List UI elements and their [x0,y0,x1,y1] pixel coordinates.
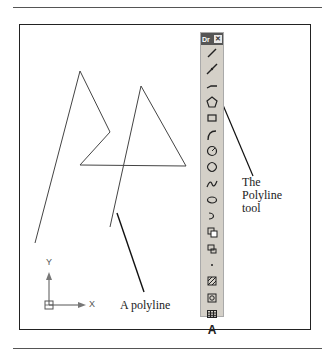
table-button[interactable] [201,306,223,322]
toolbar-title: Dr [202,36,210,43]
rectangle-icon [206,112,218,124]
spline-icon [206,178,218,190]
draw-toolbar: Dr ✕ A [200,32,224,317]
polyline-leader [117,213,144,292]
hatch-button[interactable] [201,273,223,289]
construction-line-button[interactable] [201,61,223,77]
rectangle-button[interactable] [201,110,223,126]
polyline-button[interactable] [201,78,223,94]
circle-button[interactable] [201,143,223,159]
line-button[interactable] [201,45,223,61]
ellipse-button[interactable] [201,192,223,208]
polygon-button[interactable] [201,94,223,110]
polyline-shape [35,71,186,243]
insert-block-button[interactable] [201,224,223,240]
polygon-icon [206,96,218,108]
multiline-text-button[interactable]: A [201,322,223,338]
construction-line-icon [206,63,218,75]
arc-button[interactable] [201,126,223,142]
line-icon [206,47,218,59]
arc-icon [206,129,218,141]
region-icon [206,292,218,304]
close-button[interactable]: ✕ [214,35,222,43]
revision-cloud-icon [206,161,218,173]
ellipse-icon [206,194,218,206]
polyline-caption: A polyline [120,299,170,312]
ellipse-arc-icon [206,210,218,222]
make-block-button[interactable] [201,241,223,257]
make-block-icon [206,243,218,255]
ellipse-arc-button[interactable] [201,208,223,224]
insert-block-icon [206,226,218,238]
circle-icon [206,145,218,157]
ucs-icon [45,272,86,309]
revision-cloud-button[interactable] [201,159,223,175]
hatch-icon [206,275,218,287]
point-icon [206,259,218,271]
spline-button[interactable] [201,175,223,191]
table-icon [206,308,218,320]
bottom-rule [13,348,322,349]
polyline-icon [206,80,218,92]
ucs-y-label: Y [46,257,52,267]
ucs-x-label: X [89,299,95,309]
toolbar-title-bar[interactable]: Dr ✕ [201,33,223,45]
tool-caption: The Polyline tool [242,176,282,215]
region-button[interactable] [201,289,223,305]
multiline-text-icon: A [208,323,217,337]
point-button[interactable] [201,257,223,273]
